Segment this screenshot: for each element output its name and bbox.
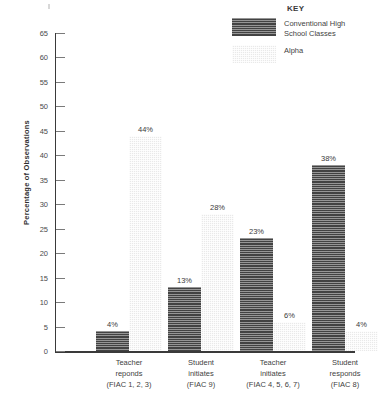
y-tick-mark — [56, 327, 65, 328]
bar-value-label: 13% — [165, 276, 205, 285]
y-tick-mark — [56, 155, 65, 156]
bar-alpha-2 — [273, 322, 306, 351]
x-axis-line — [55, 351, 355, 353]
y-tick-label: 20 — [22, 249, 48, 258]
y-tick-label: 15 — [22, 273, 48, 282]
y-tick-label: 25 — [22, 224, 48, 233]
bar-value-label: 44% — [126, 125, 166, 134]
y-tick-mark — [56, 204, 65, 205]
y-tick-label: 30 — [22, 200, 48, 209]
x-category-line-2: (FIAC 8) — [297, 379, 381, 390]
bar-value-label: 23% — [237, 227, 277, 236]
x-axis-category-labels: Teacherreponds(FIAC 1, 2, 3)Studentiniti… — [55, 357, 355, 397]
bar-value-label: 4% — [342, 320, 381, 329]
y-axis-line — [55, 33, 56, 351]
plot-area: 05101520253035404550556065 4%44%13%28%23… — [55, 33, 355, 351]
figure-caption — [55, 404, 355, 412]
y-tick-mark — [56, 131, 65, 132]
bar-value-label: 6% — [270, 311, 310, 320]
y-tick-label: 5 — [22, 322, 48, 331]
x-category-line-1: responds — [297, 368, 381, 379]
y-axis-title: Percentage of Observations — [22, 103, 31, 243]
legend-label-line-1: Conventional High — [284, 19, 345, 29]
bar-conventional-2 — [240, 238, 273, 351]
y-tick-label: 0 — [22, 347, 48, 356]
x-category-line-0: Student — [297, 357, 381, 368]
y-tick-label: 45 — [22, 126, 48, 135]
y-tick-mark — [56, 302, 65, 303]
y-tick-label: 40 — [22, 151, 48, 160]
bar-conventional-3 — [312, 165, 345, 351]
page-speck-artifact — [48, 4, 50, 9]
bar-conventional-0 — [96, 331, 129, 351]
legend-title: KEY — [287, 4, 378, 13]
bar-alpha-3 — [345, 331, 378, 351]
y-tick-mark — [56, 57, 65, 58]
bar-value-label: 38% — [309, 154, 349, 163]
x-category-label-3: Studentresponds(FIAC 8) — [297, 357, 381, 390]
bar-chart-figure: KEY Conventional High School Classes Alp… — [0, 0, 381, 412]
y-tick-mark — [56, 33, 65, 34]
y-tick-mark — [56, 229, 65, 230]
y-tick-mark — [56, 351, 65, 352]
y-tick-mark — [56, 106, 65, 107]
bar-alpha-1 — [201, 214, 234, 351]
y-tick-label: 50 — [22, 102, 48, 111]
bar-value-label: 4% — [93, 320, 133, 329]
bar-value-label: 28% — [198, 203, 238, 212]
y-tick-mark — [56, 253, 65, 254]
bar-alpha-0 — [129, 136, 162, 351]
bar-conventional-1 — [168, 287, 201, 351]
y-tick-label: 65 — [22, 29, 48, 38]
y-tick-label: 60 — [22, 53, 48, 62]
y-tick-label: 35 — [22, 175, 48, 184]
y-tick-label: 55 — [22, 77, 48, 86]
y-tick-mark — [56, 82, 65, 83]
y-tick-mark — [56, 278, 65, 279]
y-tick-label: 10 — [22, 298, 48, 307]
y-tick-mark — [56, 180, 65, 181]
